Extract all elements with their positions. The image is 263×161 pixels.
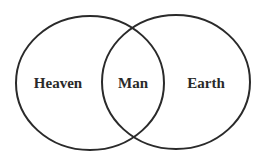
label-man: Man xyxy=(118,75,149,91)
venn-diagram: Heaven Man Earth xyxy=(0,0,263,161)
label-heaven: Heaven xyxy=(34,75,83,91)
label-earth: Earth xyxy=(187,75,225,91)
